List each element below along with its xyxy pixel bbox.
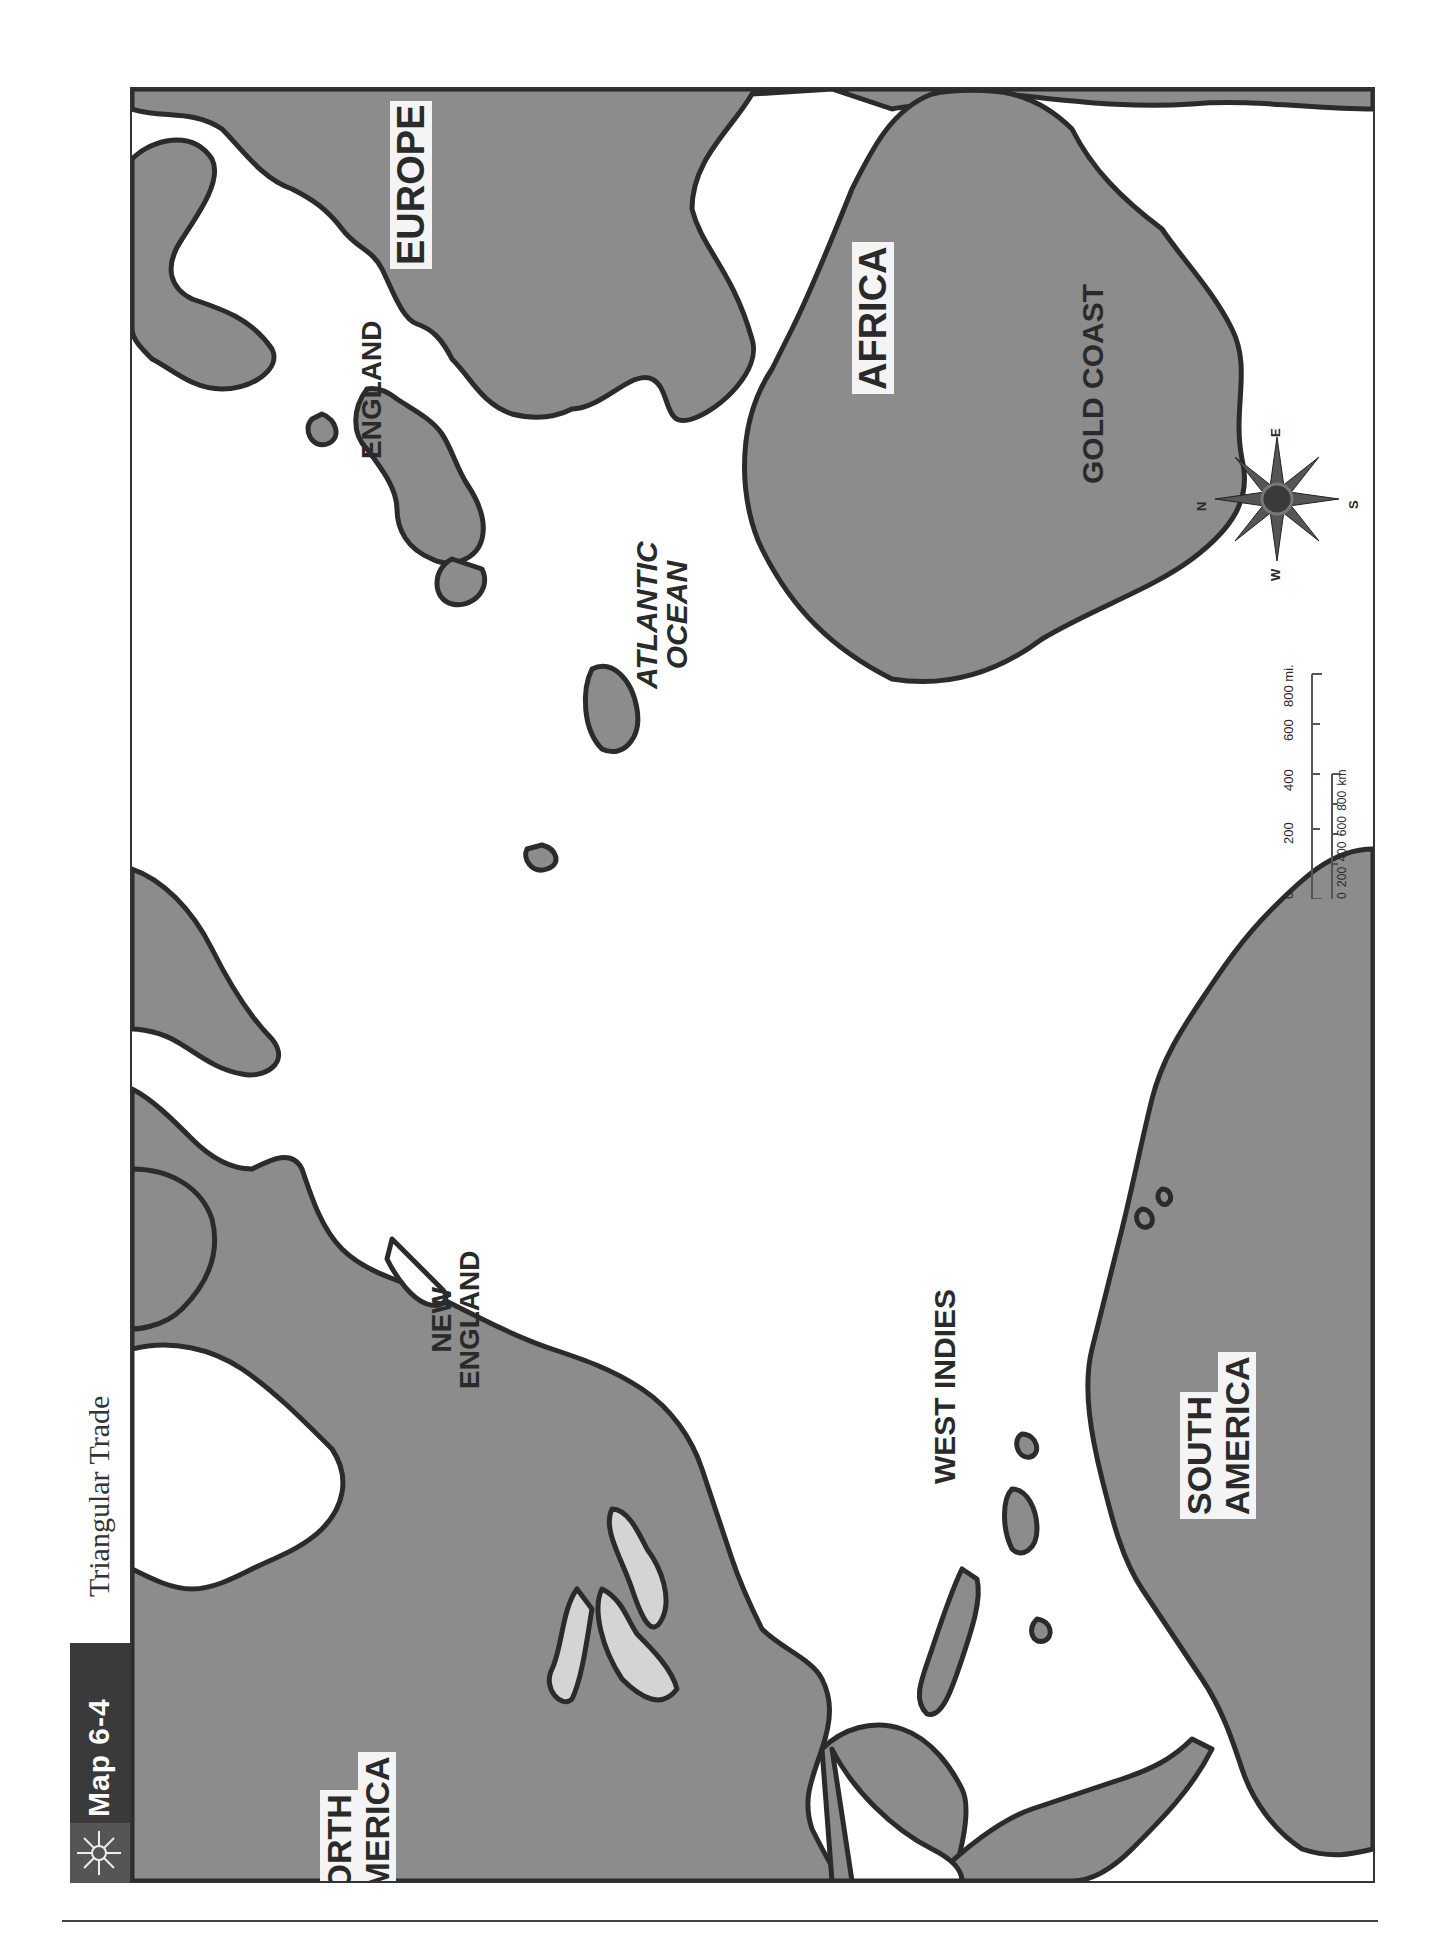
label-west-indies: WEST INDIES [930,1289,960,1484]
island-jamaica [1032,1619,1051,1641]
compass-star-icon [1207,429,1347,569]
compass-e: E [1269,428,1282,437]
compass-w: W [1269,569,1282,581]
scale-mi-200: 200 [1282,822,1295,844]
scale-bar: 0 200 400 600 800 mi. 0 200 400 600 800 … [1282,579,1372,899]
compass-s: S [1347,500,1360,509]
compass-n: N [1195,502,1208,511]
label-new-england: NEW ENGLAND [428,1251,484,1389]
label-atlantic-ocean: ATLANTIC OCEAN [632,541,692,689]
scale-km-labels: 0 200 400 600 800 km [1336,769,1348,899]
northern-europe-landmass [132,140,274,389]
island-small-1 [1137,1209,1153,1227]
map-area: EUROPE ENGLAND AFRICA GOLD COAST ATLANTI… [132,89,1373,1881]
island-cuba [919,1569,978,1715]
scale-mi-800: 800 mi. [1282,664,1295,707]
scotland-landmass [308,414,336,445]
map-title: Triangular Trade [82,1396,116,1597]
label-europe: EUROPE [390,101,432,269]
island-small-2 [1158,1189,1171,1204]
island-hispaniola [1005,1489,1038,1553]
label-england: ENGLAND [358,321,386,459]
island-puerto-rico [1017,1434,1037,1457]
compass-rose: N E S W [1207,429,1347,569]
page-footer-rule [62,1920,1378,1922]
label-south-america: SOUTH AMERICA [1180,1352,1256,1519]
map-number: Map 6-4 [82,1698,116,1817]
label-gold-coast: GOLD COAST [1078,284,1108,484]
africa-landmass [745,90,1245,681]
label-africa: AFRICA [852,242,894,394]
scale-mi-600: 600 [1282,719,1295,741]
ireland-landmass [437,559,485,605]
compass-star-icon [70,1823,128,1883]
central-america-landmass [932,1739,1212,1881]
island-med [526,845,556,870]
map-title-strip: Map 6-4 Triangular Trade [70,87,132,1883]
title-icon-box [70,1823,130,1883]
label-north-america: NORTH AMERICA [320,1752,396,1881]
map-landmasses [132,89,1373,1881]
scale-mi-400: 400 [1282,769,1295,791]
greenland-landmass [132,869,279,1075]
scale-mi-0: 0 [1282,892,1295,899]
